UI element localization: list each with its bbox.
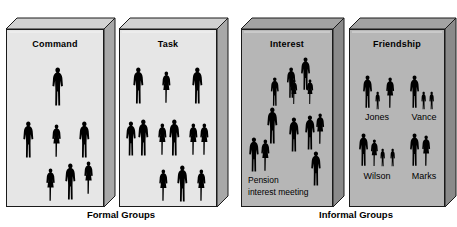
panel-front-friendship: FriendshipJonesVanceWilsonMarks xyxy=(349,29,445,207)
family-name-label: Vance xyxy=(402,112,445,122)
silhouette-child xyxy=(389,148,396,167)
silhouette-man xyxy=(361,75,374,109)
panel-front-interest: InterestPensioninterest meeting xyxy=(241,29,333,207)
panel-title-friendship: Friendship xyxy=(349,39,445,49)
silhouette-man xyxy=(131,67,146,105)
family-name-label: Marks xyxy=(402,171,445,181)
panel-front-command: Command xyxy=(6,29,104,207)
silhouette-woman xyxy=(314,113,326,145)
group-label-formal: Formal Groups xyxy=(61,209,181,220)
panel-caption: interest meeting xyxy=(248,187,308,197)
silhouette-man xyxy=(287,117,301,153)
silhouette-woman xyxy=(198,123,211,156)
silhouette-man xyxy=(190,67,205,105)
group-label-informal: Informal Groups xyxy=(292,209,420,220)
panel-interest[interactable]: InterestPensioninterest meeting xyxy=(241,18,344,207)
panel-command[interactable]: Command xyxy=(6,18,115,207)
silhouette-man xyxy=(77,121,92,159)
silhouette-man xyxy=(63,163,78,201)
silhouette-man xyxy=(167,119,182,157)
panel-title-command: Command xyxy=(6,39,104,49)
silhouette-man xyxy=(309,151,323,187)
panel-title-interest: Interest xyxy=(241,39,333,49)
silhouette-woman xyxy=(160,71,173,104)
silhouette-child xyxy=(374,91,381,110)
panel-caption: Pension xyxy=(248,175,279,185)
silhouette-man xyxy=(21,121,36,159)
silhouette-woman xyxy=(50,124,63,158)
diagram-canvas: CommandTaskInterestPensioninterest meeti… xyxy=(0,0,457,227)
panel-task[interactable]: Task xyxy=(119,18,228,207)
silhouette-child xyxy=(420,91,427,110)
silhouette-man xyxy=(175,165,190,203)
family-name-label: Jones xyxy=(355,112,399,122)
silhouette-man xyxy=(50,67,65,107)
silhouette-woman xyxy=(44,168,57,202)
silhouette-woman xyxy=(82,161,95,195)
family-name-label: Wilson xyxy=(353,171,401,181)
silhouette-child xyxy=(379,148,386,167)
silhouette-woman xyxy=(384,77,396,109)
silhouette-man xyxy=(136,119,151,157)
silhouette-man xyxy=(269,77,281,107)
silhouette-woman xyxy=(259,139,272,172)
silhouette-woman xyxy=(305,79,315,105)
panel-friendship[interactable]: FriendshipJonesVanceWilsonMarks xyxy=(349,18,456,207)
silhouette-woman xyxy=(195,169,208,202)
silhouette-woman xyxy=(289,79,299,105)
silhouette-woman xyxy=(420,135,432,167)
silhouette-woman xyxy=(157,169,170,202)
silhouette-child xyxy=(428,91,435,110)
panel-title-task: Task xyxy=(119,39,217,49)
panel-front-task: Task xyxy=(119,29,217,207)
